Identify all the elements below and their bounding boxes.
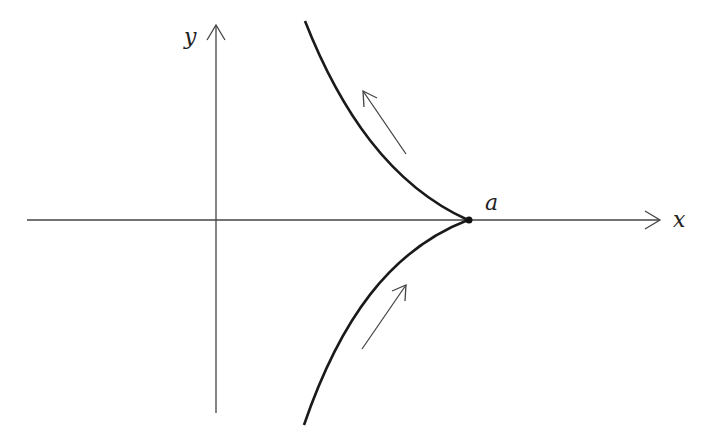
point-label-a: a [485,190,498,215]
x-axis [27,211,660,229]
lower-branch-curve [304,220,468,425]
y-axis-label: y [183,24,197,49]
cusp-point [466,217,473,224]
upper-direction-arrow-icon [363,91,406,154]
cusp-diagram: x y a [0,0,710,437]
upper-branch-curve [305,21,468,220]
x-axis-label: x [673,207,686,232]
y-axis [207,25,225,413]
